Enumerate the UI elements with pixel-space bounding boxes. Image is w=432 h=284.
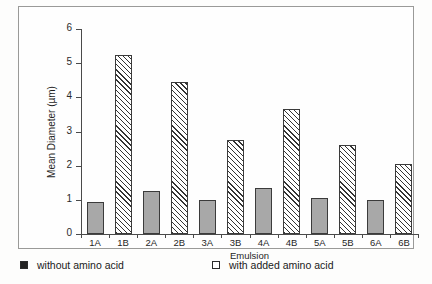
x-tick	[418, 234, 419, 238]
bar-1B	[115, 55, 132, 234]
y-tick-label: 2	[66, 159, 72, 171]
x-tick-label-6B: 6B	[390, 237, 418, 248]
y-tick-label: 6	[66, 22, 72, 34]
filled-square-icon	[20, 261, 28, 269]
x-tick-label-2B: 2B	[165, 237, 193, 248]
y-tick-label: 3	[66, 125, 72, 137]
legend-item-without-amino-acid: without amino acid	[20, 258, 124, 272]
x-tick-label-2A: 2A	[137, 237, 165, 248]
chart-legend: without amino acid with added amino acid	[18, 258, 414, 278]
chart-frame: 0123456 1A1B2A2B3A3B4A4B5A5B6A6B Emulsio…	[18, 6, 414, 249]
bar-6B	[395, 164, 412, 234]
empty-square-icon	[212, 261, 220, 269]
y-tick: 6	[76, 29, 81, 30]
plot-area: 0123456 1A1B2A2B3A3B4A4B5A5B6A6B Emulsio…	[81, 29, 418, 234]
x-tick-label-1A: 1A	[81, 237, 109, 248]
y-tick: 3	[76, 132, 81, 133]
y-tick: 2	[76, 166, 81, 167]
legend-label-without-amino-acid: without amino acid	[37, 258, 124, 272]
bar-2B	[171, 82, 188, 234]
x-tick-label-1B: 1B	[109, 237, 137, 248]
x-tick-label-6A: 6A	[362, 237, 390, 248]
bar-4B	[283, 109, 300, 234]
x-tick-label-3A: 3A	[193, 237, 221, 248]
y-tick: 1	[76, 200, 81, 201]
y-axis-line	[81, 29, 82, 235]
bar-1A	[87, 202, 104, 234]
y-tick-label: 4	[66, 90, 72, 102]
y-tick: 4	[76, 97, 81, 98]
bar-6A	[367, 200, 384, 234]
x-tick-label-4B: 4B	[278, 237, 306, 248]
x-tick-label-3B: 3B	[221, 237, 249, 248]
bar-4A	[255, 188, 272, 234]
x-tick-label-5B: 5B	[334, 237, 362, 248]
legend-item-with-added-amino-acid: with added amino acid	[212, 258, 333, 272]
bar-5B	[339, 145, 356, 234]
bar-5A	[311, 198, 328, 234]
bar-3B	[227, 140, 244, 234]
figure-bar-chart: 0123456 1A1B2A2B3A3B4A4B5A5B6A6B Emulsio…	[0, 0, 432, 284]
y-tick-label: 0	[66, 227, 72, 239]
y-tick-label: 1	[66, 193, 72, 205]
y-tick-label: 5	[66, 56, 72, 68]
legend-label-with-added-amino-acid: with added amino acid	[229, 258, 333, 272]
bar-2A	[143, 191, 160, 234]
x-tick-label-5A: 5A	[306, 237, 334, 248]
y-tick: 5	[76, 63, 81, 64]
y-axis-title: Mean Diameter (µm)	[45, 29, 59, 235]
x-tick-label-4A: 4A	[250, 237, 278, 248]
bar-3A	[199, 200, 216, 234]
